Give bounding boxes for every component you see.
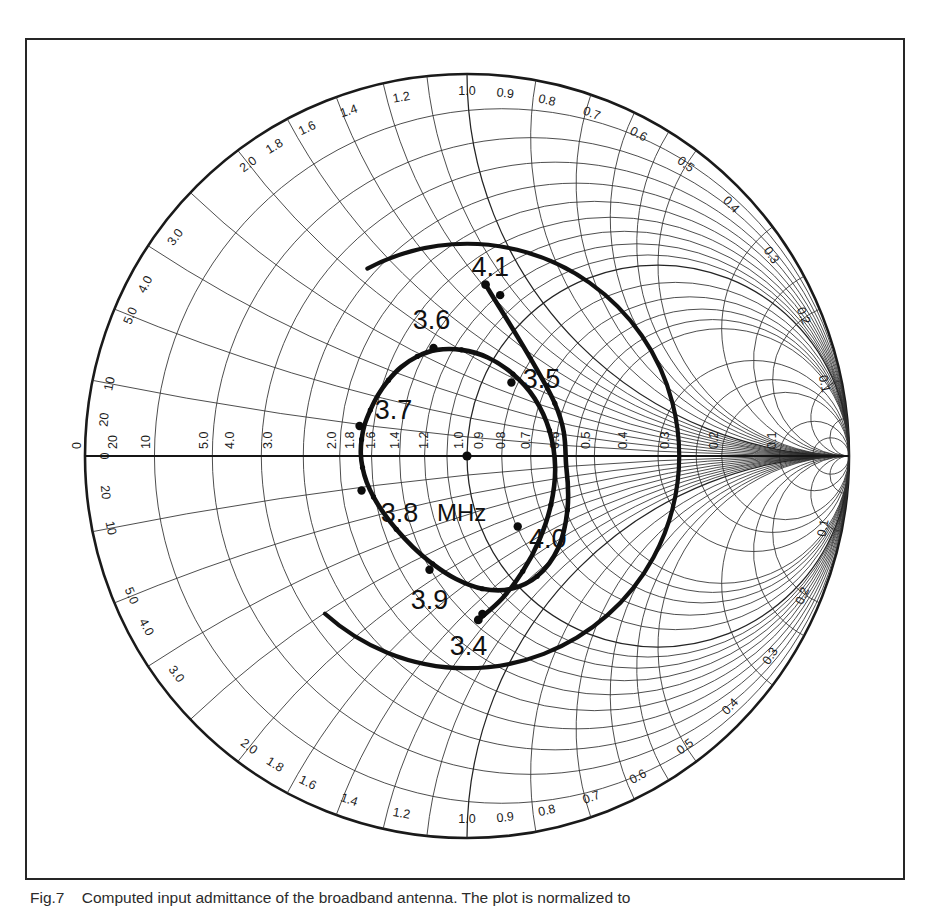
frequency-label-3p9: 3.9 (411, 585, 449, 615)
axis-tick-label-0p3: 0.3 (658, 432, 672, 449)
frequency-label-3p8: 3.8 (381, 498, 419, 528)
chart-center-dot (462, 451, 471, 460)
frequency-marker-dot-4p0 (514, 522, 522, 530)
locus-sample-dot (371, 494, 376, 499)
locus-sample-dot (535, 574, 540, 579)
frequency-marker-dot-3p7 (355, 422, 363, 430)
locus-sample-dot (386, 378, 391, 383)
rim-label-neg1p0: 1.0 (458, 812, 475, 826)
rim-label-neg10: 10 (103, 520, 119, 536)
axis-tick-label-10: 10 (139, 435, 153, 449)
rim-label-pos10: 10 (101, 376, 117, 392)
locus-sample-dot (565, 507, 570, 512)
axis-tick-label-20: 20 (106, 435, 120, 449)
locus-sample-dot (415, 354, 420, 359)
frequency-marker-dot-3p6 (429, 344, 437, 352)
frequency-marker-dot-3p4 (478, 610, 486, 618)
smith-chart-container: 00.10.10.20.20.30.30.40.40.50.50.60.60.7… (25, 38, 905, 880)
axis-tick-label-2p0: 2.0 (325, 432, 339, 449)
rim-label-pos1p0: 1.0 (458, 84, 475, 98)
axis-tick-label-0: 0 (70, 442, 84, 449)
locus-sample-dot (368, 407, 373, 412)
axis-tick-label-1p8: 1.8 (343, 432, 357, 449)
frequency-marker-dot-3p9 (425, 565, 433, 573)
frequency-label-3p7: 3.7 (375, 395, 413, 425)
locus-sample-dot (430, 561, 435, 566)
axis-tick-label-0p7: 0.7 (519, 432, 533, 449)
axis-tick-label-4p0: 4.0 (223, 432, 237, 449)
frequency-label-4p1: 4.1 (471, 252, 509, 282)
axis-tick-label-1p0: 1.0 (452, 432, 466, 449)
axis-tick-label-0p8: 0.8 (494, 432, 508, 449)
caption-text: Computed input admittance of the broadba… (82, 889, 631, 906)
locus-sample-dot (359, 437, 364, 442)
axis-tick-label-1p4: 1.4 (388, 432, 402, 449)
axis-tick-label-1p6: 1.6 (364, 432, 378, 449)
frequency-unit-label: MHz (437, 499, 486, 526)
axis-tick-label-3p0: 3.0 (261, 432, 275, 449)
axis-tick-label-0p1: 0.1 (765, 432, 779, 449)
rim-label-neg0p9: 0.9 (496, 809, 515, 825)
rim-label-neg20: 20 (98, 485, 113, 500)
locus-sample-dot (459, 347, 464, 352)
axis-tick-label-0p9: 0.9 (472, 432, 486, 449)
frequency-label-4p0: 4.0 (529, 524, 567, 554)
frequency-label-3p6: 3.6 (413, 305, 451, 335)
rim-label-pos0p9: 0.9 (496, 85, 515, 101)
axis-tick-label-0p5: 0.5 (579, 432, 593, 449)
frequency-label-3p4: 3.4 (450, 631, 488, 661)
frequency-marker-dot-3p8 (357, 486, 365, 494)
caption-label: Fig.7 (30, 889, 64, 906)
rim-label-pos20: 20 (96, 412, 111, 427)
axis-tick-label-5p0: 5.0 (197, 432, 211, 449)
locus-sample-dot (552, 401, 557, 406)
locus-sample-dot (510, 371, 515, 376)
frequency-marker-dot-4p1 (496, 291, 504, 299)
frequency-marker-dot-3p5 (507, 378, 515, 386)
locus-sample-dot (480, 586, 485, 591)
axis-tick-label-0p4: 0.4 (616, 432, 630, 449)
axis-tick-label-0p2: 0.2 (707, 432, 721, 449)
figure-caption: Fig.7 Computed input admittance of the b… (30, 888, 910, 907)
frequency-label-3p5: 3.5 (523, 364, 561, 394)
locus-sample-dot (547, 428, 552, 433)
locus-sample-dot (548, 502, 553, 507)
locus-sample-dot (360, 465, 365, 470)
locus-sample-dot (520, 569, 525, 574)
axis-tick-label-1p2: 1.2 (417, 432, 431, 449)
smith-chart-svg: 00.10.10.20.20.30.30.40.40.50.50.60.60.7… (25, 38, 905, 880)
